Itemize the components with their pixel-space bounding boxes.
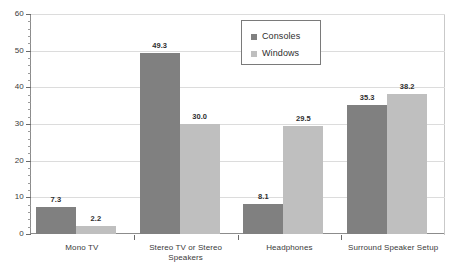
y-axis-tick	[26, 124, 31, 125]
bar-chart: 0102030405060 Mono TVStereo TV or Stereo…	[0, 0, 458, 276]
y-axis-minor-tick	[28, 205, 31, 206]
gridline	[30, 14, 445, 15]
y-axis-minor-tick	[28, 190, 31, 191]
y-axis-minor-tick	[28, 36, 31, 37]
bar-consoles-1	[140, 53, 180, 234]
y-axis-minor-tick	[28, 43, 31, 44]
y-axis-tick-label: 60	[0, 10, 24, 18]
y-axis-tick-label: 50	[0, 47, 24, 55]
bar-value-label: 38.2	[383, 83, 431, 91]
y-axis-minor-tick	[28, 29, 31, 30]
y-axis-tick-label: 0	[0, 230, 24, 238]
y-axis-tick	[26, 234, 31, 235]
bar-consoles-0	[36, 207, 76, 234]
y-axis-tick	[26, 197, 31, 198]
legend-item-consoles: Consoles	[251, 28, 320, 45]
y-axis-minor-tick	[28, 102, 31, 103]
x-axis-category-label: Surround Speaker Setup	[341, 243, 445, 253]
y-axis-tick	[26, 161, 31, 162]
legend-label-windows: Windows	[262, 49, 299, 58]
x-axis-category-label: Stereo TV or StereoSpeakers	[134, 243, 238, 263]
bar-value-label: 29.5	[279, 115, 327, 123]
y-axis-minor-tick	[28, 80, 31, 81]
y-axis-minor-tick	[28, 175, 31, 176]
y-axis-minor-tick	[28, 227, 31, 228]
x-axis-tick	[341, 235, 342, 240]
gridline	[30, 51, 445, 52]
y-axis-minor-tick	[28, 73, 31, 74]
bar-consoles-2	[243, 204, 283, 234]
y-axis-minor-tick	[28, 212, 31, 213]
bar-windows-0	[76, 226, 116, 234]
y-axis-minor-tick	[28, 95, 31, 96]
y-axis-tick-label: 20	[0, 157, 24, 165]
legend-swatch-consoles-icon	[251, 34, 257, 40]
y-axis-minor-tick	[28, 21, 31, 22]
bar-value-label: 7.3	[32, 196, 80, 204]
y-axis-minor-tick	[28, 58, 31, 59]
y-axis-minor-tick	[28, 168, 31, 169]
y-axis-minor-tick	[28, 183, 31, 184]
y-axis-tick-label: 10	[0, 193, 24, 201]
bar-windows-3	[387, 94, 427, 234]
y-axis-minor-tick	[28, 153, 31, 154]
y-axis-tick-label: 40	[0, 83, 24, 91]
legend-item-windows: Windows	[251, 45, 320, 62]
y-axis-minor-tick	[28, 131, 31, 132]
bar-windows-2	[283, 126, 323, 234]
bar-consoles-3	[347, 105, 387, 234]
bar-windows-1	[180, 124, 220, 234]
bar-value-label: 8.1	[239, 193, 287, 201]
legend-label-consoles: Consoles	[262, 32, 300, 41]
x-axis-category-label: Mono TV	[30, 243, 134, 253]
x-axis-tick	[134, 235, 135, 240]
y-axis-minor-tick	[28, 219, 31, 220]
y-axis-minor-tick	[28, 109, 31, 110]
y-axis-tick	[26, 51, 31, 52]
y-axis-minor-tick	[28, 65, 31, 66]
bar-value-label: 30.0	[176, 113, 224, 121]
y-axis-tick	[26, 87, 31, 88]
y-axis-minor-tick	[28, 117, 31, 118]
y-axis-minor-tick	[28, 139, 31, 140]
y-axis-minor-tick	[28, 146, 31, 147]
bar-value-label: 49.3	[136, 42, 184, 50]
bar-value-label: 2.2	[72, 215, 120, 223]
legend-swatch-windows-icon	[251, 51, 257, 57]
y-axis-tick-label: 30	[0, 120, 24, 128]
x-axis-category-label: Headphones	[238, 243, 342, 253]
bar-value-label: 35.3	[343, 94, 391, 102]
y-axis-tick	[26, 14, 31, 15]
x-axis-tick	[238, 235, 239, 240]
chart-legend: Consoles Windows	[241, 20, 321, 65]
